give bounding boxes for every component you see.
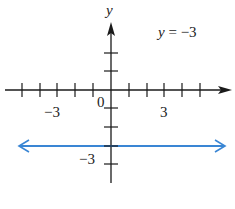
y-axis-label: y — [104, 2, 113, 18]
equation-label: y = −3 — [156, 24, 197, 40]
origin-label: 0 — [97, 94, 105, 110]
y-tick-label-neg3: −3 — [79, 151, 95, 167]
x-tick-label-3: 3 — [160, 104, 168, 120]
coordinate-plane: y y = −3 0 −3 3 −3 — [0, 0, 235, 209]
x-tick-label-neg3: −3 — [44, 104, 60, 120]
